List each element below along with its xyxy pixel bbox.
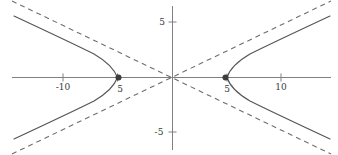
vertex-right-dot [223,75,229,81]
vertex-left-dot [116,75,122,81]
y-label-neg5: -5 [155,127,164,137]
x-label-neg5: 5 [117,84,123,94]
y-label-pos5: 5 [159,17,165,27]
x-label-neg10: -10 [56,82,71,92]
hyperbola-plot: -10 5 5 10 5 -5 [0,0,338,155]
x-label-pos10: 10 [275,82,287,92]
plot-canvas: -10 5 5 10 5 -5 [0,0,338,155]
x-label-pos5: 5 [224,84,230,94]
